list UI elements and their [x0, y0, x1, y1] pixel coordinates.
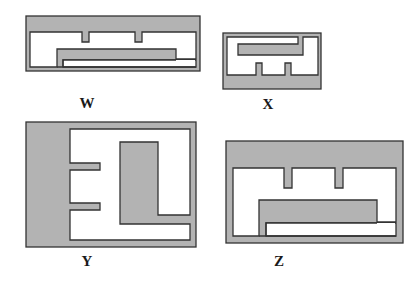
figure-w-label: W: [80, 95, 95, 111]
figure-w: W: [26, 16, 200, 111]
figure-z-label: Z: [274, 253, 284, 269]
figure-z: Z: [226, 141, 403, 269]
figure-x-channel: [227, 37, 318, 75]
figure-x: X: [223, 33, 321, 112]
figure-x-label: X: [263, 96, 274, 112]
diagram-canvas: W X Y Z: [0, 0, 417, 289]
figure-y-label: Y: [82, 253, 93, 269]
figure-y: Y: [26, 122, 196, 269]
